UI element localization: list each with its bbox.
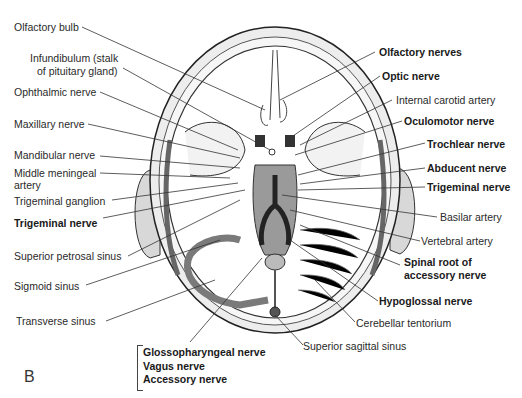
label-trigeminal-nerve-right: Trigeminal nerve <box>427 181 510 193</box>
right-ica <box>285 135 295 147</box>
panel-letter: B <box>24 368 35 386</box>
label-trigeminal-ganglion: Trigeminal ganglion <box>14 195 105 207</box>
label-maxillary-nerve: Maxillary nerve <box>14 118 85 130</box>
label-basilar-artery: Basilar artery <box>440 211 502 223</box>
label-spinal-root-line2: accessory nerve <box>404 269 486 281</box>
label-olfactory-nerves: Olfactory nerves <box>379 46 462 58</box>
label-trochlear-nerve: Trochlear nerve <box>427 138 505 150</box>
label-glossopharyngeal-nerve: Glossopharyngeal nerve <box>143 346 266 360</box>
left-ica <box>255 135 265 147</box>
label-transverse-sinus: Transverse sinus <box>16 315 96 327</box>
label-superior-petrosal-sinus: Superior petrosal sinus <box>14 250 121 262</box>
label-trigeminal-nerve-left: Trigeminal nerve <box>14 217 97 229</box>
label-vertebral-artery: Vertebral artery <box>421 235 493 247</box>
label-optic-nerve: Optic nerve <box>382 70 440 82</box>
label-infundibulum-line2: of pituitary gland) <box>37 65 118 77</box>
label-vagus-nerve: Vagus nerve <box>143 360 266 374</box>
label-olfactory-bulb: Olfactory bulb <box>14 21 79 33</box>
label-hypoglossal-nerve: Hypoglossal nerve <box>379 295 472 307</box>
anatomy-figure: Olfactory bulb Infundibulum (stalk of pi… <box>0 0 522 398</box>
label-ophthalmic-nerve: Ophthalmic nerve <box>14 86 96 98</box>
spinal-cord <box>265 254 285 270</box>
label-middle-meningeal-line1: Middle meningeal <box>14 167 96 179</box>
label-middle-meningeal-line2: artery <box>14 179 41 191</box>
label-abducent-nerve: Abducent nerve <box>427 162 506 174</box>
label-infundibulum-line1: Infundibulum (stalk <box>30 52 118 64</box>
label-superior-sagittal-sinus: Superior sagittal sinus <box>303 340 406 352</box>
label-spinal-root-line1: Spinal root of <box>404 256 472 268</box>
label-mandibular-nerve: Mandibular nerve <box>14 149 95 161</box>
label-accessory-nerve: Accessory nerve <box>143 373 266 387</box>
label-sigmoid-sinus: Sigmoid sinus <box>14 280 79 292</box>
cranial-nerve-group: Glossopharyngeal nerve Vagus nerve Acces… <box>143 346 266 387</box>
label-internal-carotid-artery: Internal carotid artery <box>396 94 495 106</box>
label-cerebellar-tentorium: Cerebellar tentorium <box>356 317 451 329</box>
label-oculomotor-nerve: Oculomotor nerve <box>404 115 494 127</box>
